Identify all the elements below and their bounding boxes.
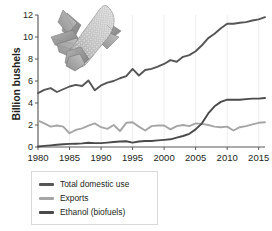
svg-text:1985: 1985 [59, 152, 80, 163]
svg-text:0: 0 [28, 142, 33, 152]
svg-text:12: 12 [23, 10, 33, 20]
x-tick-labels: 19801985199019952000200520102015 [27, 152, 269, 163]
svg-text:2: 2 [28, 120, 33, 130]
svg-text:2010: 2010 [217, 152, 238, 163]
svg-text:1980: 1980 [27, 152, 48, 163]
legend-swatch-ethanol-biofuels [39, 211, 54, 214]
svg-text:2000: 2000 [154, 152, 175, 163]
legend-swatch-total-domestic-use [39, 183, 54, 186]
legend-swatch-exports [39, 197, 54, 200]
svg-text:8: 8 [28, 54, 33, 64]
svg-text:4: 4 [28, 98, 33, 108]
chart-legend: Total domestic use Exports Ethanol (biof… [31, 171, 158, 225]
svg-text:1995: 1995 [122, 152, 143, 163]
svg-text:10: 10 [23, 32, 33, 42]
legend-label-total-domestic-use: Total domestic use [60, 179, 129, 189]
y-tick-labels: 024681012 [23, 10, 33, 152]
legend-item-exports[interactable]: Exports [39, 191, 150, 205]
legend-item-total-domestic-use[interactable]: Total domestic use [39, 177, 150, 191]
svg-text:2005: 2005 [185, 152, 206, 163]
svg-text:2015: 2015 [248, 152, 269, 163]
chart-figure: Billion bushels 024681012 19801985199019… [0, 0, 272, 231]
svg-text:1990: 1990 [90, 152, 111, 163]
svg-text:6: 6 [28, 76, 33, 86]
data-series-group [38, 17, 265, 146]
legend-label-exports: Exports [60, 193, 88, 203]
legend-item-ethanol-biofuels[interactable]: Ethanol (biofuels) [39, 205, 150, 219]
legend-label-ethanol-biofuels: Ethanol (biofuels) [60, 207, 125, 217]
